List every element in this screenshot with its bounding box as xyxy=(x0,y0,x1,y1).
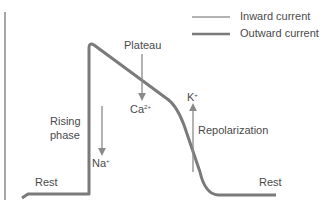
rest-left-label: Rest xyxy=(35,176,58,189)
repolarization-label: Repolarization xyxy=(198,124,268,137)
ca-ion-label: Ca2+ xyxy=(130,103,151,116)
na-ion-label: Na+ xyxy=(92,157,110,170)
plateau-label: Plateau xyxy=(124,39,161,52)
legend-label-outward: Outward current xyxy=(240,27,319,40)
rising-phase-label-1: Rising xyxy=(50,115,81,128)
legend-label-inward: Inward current xyxy=(240,10,310,23)
rising-phase-label-2: phase xyxy=(50,129,80,142)
k-ion-label: K+ xyxy=(187,91,198,104)
rest-right-label: Rest xyxy=(259,176,282,189)
